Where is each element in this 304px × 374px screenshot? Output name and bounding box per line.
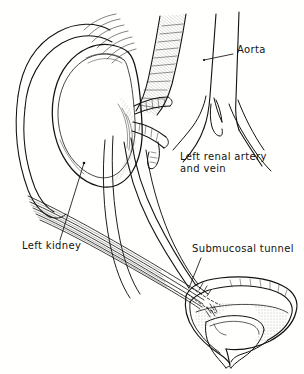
leader-aorta xyxy=(204,54,233,60)
label-left-kidney: Left kidney xyxy=(22,240,81,252)
leader-kidney xyxy=(60,163,84,240)
label-renal-line1: Left renal artery xyxy=(180,151,267,162)
illustration-canvas xyxy=(0,0,304,374)
label-aorta: Aorta xyxy=(237,44,266,56)
aorta xyxy=(183,12,262,166)
body-wall-outline xyxy=(16,24,112,218)
bladder-mucosa-shading-right xyxy=(252,303,287,342)
label-left-renal-artery-and-vein: Left renal artery and vein xyxy=(180,151,284,174)
anatomical-illustration: Aorta Left renal artery and vein Left ki… xyxy=(0,0,304,374)
label-submucosal-tunnel: Submucosal tunnel xyxy=(192,243,294,255)
renal-vessel-shading xyxy=(136,14,186,115)
label-renal-line2: and vein xyxy=(180,163,226,174)
